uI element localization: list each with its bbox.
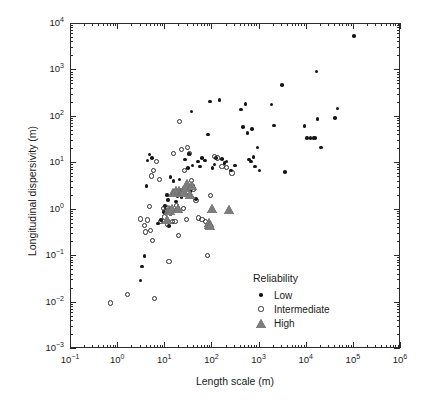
x-minor-tick-top	[157, 23, 158, 26]
x-minor-tick	[254, 345, 255, 348]
data-point-intermediate	[184, 217, 189, 222]
data-point-intermediate	[179, 147, 184, 152]
y-minor-tick-right	[397, 195, 400, 196]
x-minor-tick	[187, 345, 188, 348]
data-point-low	[252, 155, 256, 159]
data-point-high	[207, 204, 217, 213]
y-minor-tick-right	[397, 123, 400, 124]
x-minor-tick-top	[328, 23, 329, 26]
y-major-tick-right	[394, 348, 400, 349]
y-minor-tick	[70, 173, 73, 174]
y-tick-label: 100	[36, 204, 64, 214]
x-minor-tick	[201, 345, 202, 348]
x-minor-tick-top	[197, 23, 198, 26]
y-minor-tick-right	[397, 148, 400, 149]
y-minor-tick	[70, 241, 73, 242]
x-minor-tick-top	[187, 23, 188, 26]
y-minor-tick	[70, 148, 73, 149]
data-point-low	[172, 179, 176, 183]
y-minor-tick-right	[397, 134, 400, 135]
x-minor-tick-top	[339, 23, 340, 26]
x-minor-tick-top	[226, 23, 227, 26]
y-minor-tick-right	[397, 167, 400, 168]
y-minor-tick-right	[397, 187, 400, 188]
x-major-tick	[400, 342, 401, 348]
y-minor-tick-right	[397, 130, 400, 131]
y-minor-tick-right	[397, 74, 400, 75]
x-minor-tick-top	[234, 23, 235, 26]
x-major-tick	[259, 342, 260, 348]
data-point-intermediate	[229, 170, 234, 175]
data-point-intermediate	[150, 238, 155, 243]
data-point-low	[258, 169, 262, 173]
data-point-intermediate	[145, 217, 150, 222]
x-minor-tick-top	[146, 23, 147, 26]
y-tick-label: 101	[36, 158, 64, 168]
x-minor-tick	[107, 345, 108, 348]
x-major-tick-top	[164, 23, 165, 29]
y-minor-tick	[70, 260, 73, 261]
x-minor-tick	[320, 345, 321, 348]
x-major-tick	[306, 342, 307, 348]
data-point-high	[187, 181, 197, 190]
x-minor-tick	[292, 345, 293, 348]
y-minor-tick-right	[397, 213, 400, 214]
x-minor-tick-top	[131, 23, 132, 26]
y-minor-tick-right	[397, 164, 400, 165]
x-minor-tick	[84, 345, 85, 348]
y-minor-tick	[70, 123, 73, 124]
data-point-low	[143, 254, 147, 258]
y-minor-tick	[70, 316, 73, 317]
y-minor-tick	[70, 262, 73, 263]
y-minor-tick	[70, 126, 73, 127]
legend-item-high: High	[253, 316, 330, 330]
y-minor-tick-right	[397, 181, 400, 182]
data-point-low	[206, 133, 210, 137]
x-minor-tick	[103, 345, 104, 348]
x-minor-tick-top	[207, 23, 208, 26]
x-tick-label: 103	[251, 355, 265, 365]
x-minor-tick	[146, 345, 147, 348]
data-point-intermediate	[152, 296, 157, 301]
data-point-intermediate	[171, 151, 176, 156]
y-minor-tick-right	[397, 41, 400, 42]
data-point-low	[183, 158, 187, 162]
x-minor-tick	[256, 345, 257, 348]
y-minor-tick-right	[397, 326, 400, 327]
x-minor-tick	[113, 345, 114, 348]
x-minor-tick-top	[209, 23, 210, 26]
x-minor-tick	[193, 345, 194, 348]
data-point-intermediate	[208, 193, 213, 198]
data-point-low	[213, 163, 217, 167]
x-minor-tick-top	[386, 23, 387, 26]
data-point-low	[316, 117, 320, 121]
x-minor-tick-top	[84, 23, 85, 26]
data-point-intermediate	[149, 173, 154, 178]
x-minor-tick-top	[251, 23, 252, 26]
data-point-intermediate	[185, 145, 190, 150]
y-minor-tick-right	[397, 316, 400, 317]
x-minor-tick	[115, 345, 116, 348]
data-point-low	[250, 127, 254, 131]
legend: Reliability Low Intermediate High	[253, 272, 330, 330]
y-minor-tick-right	[397, 233, 400, 234]
x-minor-tick-top	[256, 23, 257, 26]
y-minor-tick	[70, 257, 73, 258]
y-minor-tick	[70, 130, 73, 131]
x-minor-tick-top	[348, 23, 349, 26]
y-minor-tick	[70, 27, 73, 28]
y-minor-tick	[70, 88, 73, 89]
y-minor-tick	[70, 80, 73, 81]
x-major-tick-top	[211, 23, 212, 29]
y-minor-tick	[70, 269, 73, 270]
x-minor-tick-top	[244, 23, 245, 26]
data-point-intermediate	[147, 204, 152, 209]
x-major-tick	[117, 342, 118, 348]
y-minor-tick	[70, 55, 73, 56]
x-minor-tick-top	[201, 23, 202, 26]
x-tick-label: 100	[110, 355, 124, 365]
x-minor-tick-top	[346, 23, 347, 26]
x-minor-tick-top	[92, 23, 93, 26]
y-minor-tick	[70, 72, 73, 73]
y-major-tick	[70, 162, 76, 163]
